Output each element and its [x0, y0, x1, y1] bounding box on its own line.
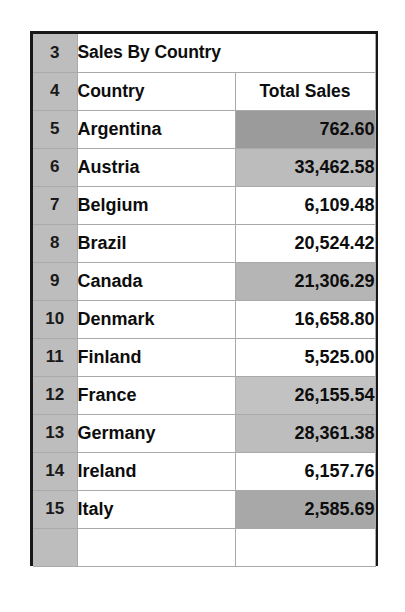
cell-country[interactable]: Italy: [77, 490, 235, 528]
sheet-title[interactable]: Sales By Country: [77, 34, 375, 72]
table-row: 11 Finland 5,525.00: [33, 338, 375, 376]
title-row: 3 Sales By Country: [33, 34, 375, 72]
cell-total-sales[interactable]: 2,585.69: [235, 490, 375, 528]
table-body: 3 Sales By Country 4 Country Total Sales…: [33, 34, 375, 566]
row-number[interactable]: 12: [33, 376, 77, 414]
table-row: 10 Denmark 16,658.80: [33, 300, 375, 338]
cell-total-sales[interactable]: 28,361.38: [235, 414, 375, 452]
row-number[interactable]: 11: [33, 338, 77, 376]
cell-total-sales[interactable]: 5,525.00: [235, 338, 375, 376]
cell-country[interactable]: Finland: [77, 338, 235, 376]
table-row: 5 Argentina 762.60: [33, 110, 375, 148]
cell-country[interactable]: Belgium: [77, 186, 235, 224]
row-number[interactable]: 14: [33, 452, 77, 490]
cell-country[interactable]: Canada: [77, 262, 235, 300]
cell-country[interactable]: France: [77, 376, 235, 414]
screenshot-canvas: 3 Sales By Country 4 Country Total Sales…: [0, 0, 405, 612]
table-row: 9 Canada 21,306.29: [33, 262, 375, 300]
row-number[interactable]: 7: [33, 186, 77, 224]
column-header-row: 4 Country Total Sales: [33, 72, 375, 110]
cell-country[interactable]: Austria: [77, 148, 235, 186]
row-number[interactable]: 6: [33, 148, 77, 186]
cell-country[interactable]: Denmark: [77, 300, 235, 338]
row-number-4[interactable]: 4: [33, 72, 77, 110]
cell-country[interactable]: Germany: [77, 414, 235, 452]
row-number-3[interactable]: 3: [33, 34, 77, 72]
column-header-country[interactable]: Country: [77, 72, 235, 110]
sales-sliver: [235, 528, 375, 566]
cell-total-sales[interactable]: 762.60: [235, 110, 375, 148]
row-number[interactable]: 15: [33, 490, 77, 528]
table-row: 12 France 26,155.54: [33, 376, 375, 414]
row-number[interactable]: 5: [33, 110, 77, 148]
cell-country[interactable]: Brazil: [77, 224, 235, 262]
table-row: 14 Ireland 6,157.76: [33, 452, 375, 490]
row-number[interactable]: 8: [33, 224, 77, 262]
cell-total-sales[interactable]: 33,462.58: [235, 148, 375, 186]
cell-total-sales[interactable]: 6,109.48: [235, 186, 375, 224]
table-row: 7 Belgium 6,109.48: [33, 186, 375, 224]
row-number[interactable]: 10: [33, 300, 77, 338]
cell-total-sales[interactable]: 26,155.54: [235, 376, 375, 414]
table-row: 13 Germany 28,361.38: [33, 414, 375, 452]
cell-total-sales[interactable]: 16,658.80: [235, 300, 375, 338]
gutter-sliver: [33, 528, 77, 566]
table-row: 15 Italy 2,585.69: [33, 490, 375, 528]
column-header-total-sales[interactable]: Total Sales: [235, 72, 375, 110]
table-row: 8 Brazil 20,524.42: [33, 224, 375, 262]
cell-total-sales[interactable]: 21,306.29: [235, 262, 375, 300]
spreadsheet-range-frame: 3 Sales By Country 4 Country Total Sales…: [30, 31, 378, 566]
range-bottom-sliver: [33, 528, 375, 566]
country-sliver: [77, 528, 235, 566]
cell-total-sales[interactable]: 20,524.42: [235, 224, 375, 262]
row-number[interactable]: 13: [33, 414, 77, 452]
cell-total-sales[interactable]: 6,157.76: [235, 452, 375, 490]
table-row: 6 Austria 33,462.58: [33, 148, 375, 186]
sales-by-country-table: 3 Sales By Country 4 Country Total Sales…: [33, 34, 376, 567]
cell-country[interactable]: Ireland: [77, 452, 235, 490]
cell-country[interactable]: Argentina: [77, 110, 235, 148]
row-number[interactable]: 9: [33, 262, 77, 300]
